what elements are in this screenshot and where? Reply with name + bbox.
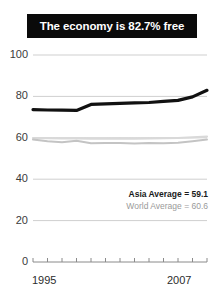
x-axis-ticks xyxy=(33,258,207,262)
legend: Asia Average = 59.1 World Average = 60.6 xyxy=(108,188,208,212)
legend-item-world-average: World Average = 60.6 xyxy=(108,200,208,212)
series-line-asia-average xyxy=(33,140,207,144)
plot-area xyxy=(0,0,217,304)
series-line-country xyxy=(33,90,207,110)
legend-item-asia-average: Asia Average = 59.1 xyxy=(108,188,208,200)
series-line-world-average xyxy=(33,137,207,139)
chart-container: The economy is 82.7% free 100 80 60 40 2… xyxy=(0,0,217,304)
